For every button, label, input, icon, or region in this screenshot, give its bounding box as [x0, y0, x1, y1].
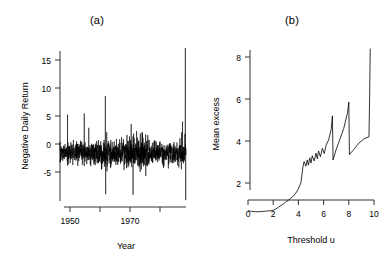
- panel-a-xtick-1970: 1970: [121, 216, 140, 226]
- panel-a-y-ticks: [55, 60, 60, 172]
- panel-b-ylabel: Mean excess: [211, 97, 221, 151]
- panel-a-xtick-1950: 1950: [61, 216, 80, 226]
- panel-a-ytick-15: 15: [42, 56, 52, 66]
- panel-b-ytick-2: 2: [236, 179, 241, 189]
- panel-a-ytick-0: 0: [46, 140, 51, 150]
- figure-container: (a) 15 10 5 0 -5: [0, 0, 389, 267]
- panel-a-ylabel: Negative Daily Return: [20, 82, 30, 170]
- panel-a: (a) 15 10 5 0 -5: [0, 0, 194, 267]
- panel-b-ytick-8: 8: [236, 53, 241, 63]
- panel-a-series: [60, 48, 186, 200]
- panel-b-xlabel: Threshold u: [287, 235, 335, 245]
- panel-b: (b) 8 6 4 2 0: [195, 0, 389, 267]
- panel-a-ytick-10: 10: [42, 84, 52, 94]
- panel-b-y-ticks: [245, 57, 250, 183]
- panel-a-ytick-neg5: -5: [43, 168, 51, 178]
- panel-b-plot: 8 6 4 2 0 2 4 6 8 10 Threshold u Mean ex…: [195, 0, 389, 267]
- panel-a-ytick-5: 5: [46, 112, 51, 122]
- panel-b-xtick-8: 8: [346, 209, 351, 219]
- panel-b-x-ticks: [248, 200, 374, 205]
- panel-b-xtick-6: 6: [321, 209, 326, 219]
- panel-b-xtick-10: 10: [369, 209, 379, 219]
- panel-b-ytick-4: 4: [236, 137, 241, 147]
- panel-a-x-ticks: [70, 207, 160, 212]
- panel-b-ytick-6: 6: [236, 95, 241, 105]
- panel-a-xlabel: Year: [117, 241, 135, 251]
- panel-b-xtick-4: 4: [296, 209, 301, 219]
- panel-a-plot: 15 10 5 0 -5 1950 1970 Year Negative Dai…: [0, 0, 194, 267]
- panel-b-series: [248, 49, 370, 212]
